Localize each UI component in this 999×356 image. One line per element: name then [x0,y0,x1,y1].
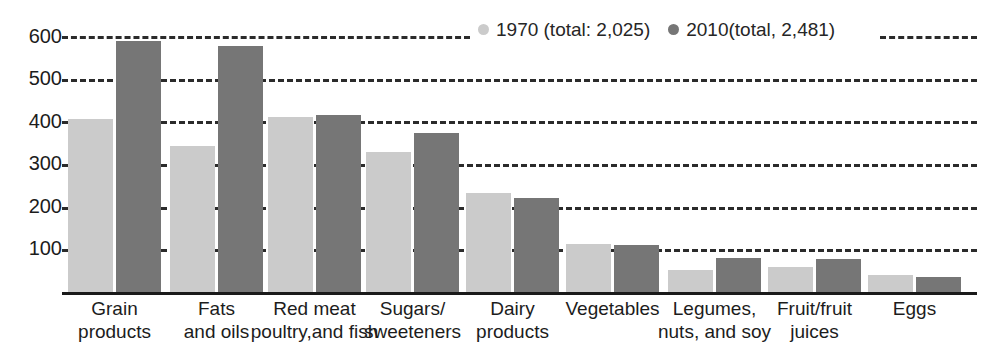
x-axis-category-label-line: juices [730,320,900,343]
bar-1970 [268,117,313,293]
legend-label: 2010(total, 2,481) [686,20,835,39]
x-axis-category-label: Eggs [830,297,999,320]
bar-2010 [514,198,559,293]
bars-layer [0,0,999,293]
bar-group [466,36,559,293]
legend-swatch-icon [668,24,679,35]
legend-item-2010: 2010(total, 2,481) [668,20,835,39]
legend-item-1970: 1970 (total: 2,025) [478,20,650,39]
x-axis-line [62,292,977,295]
x-axis-category-label-line: Eggs [830,297,999,320]
bar-group [68,36,161,293]
bar-group [566,36,659,293]
legend-swatch-icon [478,24,489,35]
x-axis-labels: GrainproductsFatsand oilsRed meatpoultry… [0,297,999,353]
bar-group [768,36,861,293]
bar-group [366,36,459,293]
bar-group [868,36,961,293]
bar-1970 [466,193,511,293]
bar-1970 [768,267,813,293]
bar-1970 [868,275,913,293]
bar-chart: 600 500 400 300 200 100 1970 (total: 2,0… [0,0,999,356]
bar-2010 [816,259,861,293]
bar-group [268,36,361,293]
bar-1970 [668,270,713,293]
bar-group [668,36,761,293]
bar-2010 [614,245,659,293]
bar-1970 [566,244,611,293]
legend: 1970 (total: 2,025) 2010(total, 2,481) [470,17,843,41]
bar-2010 [716,258,761,293]
bar-2010 [916,277,961,293]
bar-1970 [366,152,411,293]
bar-2010 [414,133,459,293]
bar-1970 [68,119,113,293]
bar-2010 [218,46,263,293]
bar-1970 [170,146,215,293]
bar-group [170,36,263,293]
bar-2010 [316,115,361,293]
x-axis-category-label-line: products [428,320,598,343]
bar-2010 [116,41,161,293]
legend-label: 1970 (total: 2,025) [496,20,650,39]
